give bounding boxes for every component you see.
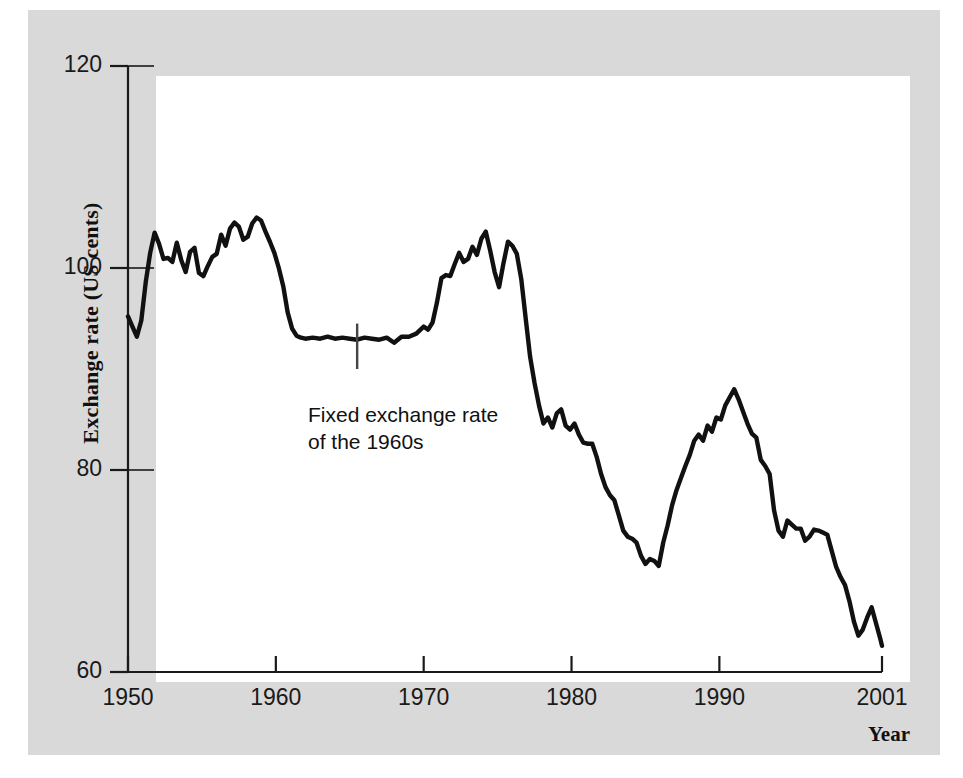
- axis-ticks: [110, 66, 882, 672]
- x-tick-label: 1990: [659, 684, 779, 711]
- x-tick-label: 1980: [512, 684, 632, 711]
- x-tick-label: 1970: [364, 684, 484, 711]
- y-tick-label: 80: [32, 455, 102, 482]
- exchange-rate-line: [128, 218, 882, 646]
- x-tick-label: 1950: [68, 684, 188, 711]
- chart-figure: Exchange rate (US cents) Year Fixed exch…: [0, 0, 963, 778]
- chart-plot: [0, 0, 963, 778]
- x-tick-label: 1960: [216, 684, 336, 711]
- axis-lines: [128, 66, 882, 672]
- x-tick-label: 2001: [822, 684, 942, 711]
- y-tick-label: 60: [32, 657, 102, 684]
- y-tick-label: 120: [32, 51, 102, 78]
- y-tick-label: 100: [32, 253, 102, 280]
